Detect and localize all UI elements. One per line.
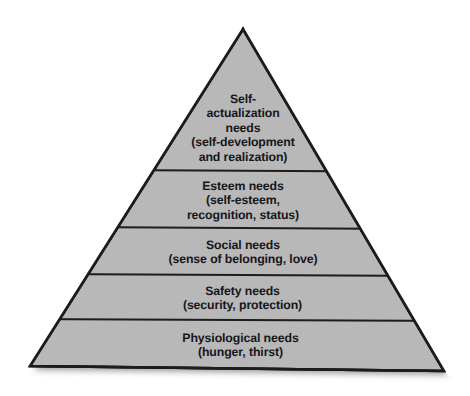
tier-label-physiological: Physiological needs (hunger, thirst) bbox=[78, 331, 403, 360]
tier-text-layer: Self- actualization needs (self-developm… bbox=[0, 0, 470, 396]
tier-label-self-actualization: Self- actualization needs (self-developm… bbox=[133, 92, 353, 164]
tier-label-safety: Safety needs (security, protection) bbox=[95, 284, 390, 313]
tier-label-social: Social needs (sense of belonging, love) bbox=[108, 238, 378, 267]
tier-label-esteem: Esteem needs (self-esteem, recognition, … bbox=[123, 179, 363, 222]
maslow-pyramid-diagram: Self- actualization needs (self-developm… bbox=[0, 0, 470, 396]
